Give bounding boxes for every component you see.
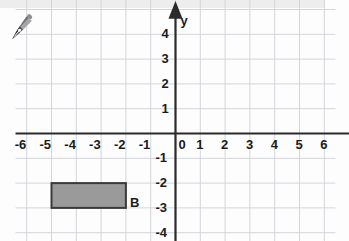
y-tick-neg3: -3	[156, 201, 168, 214]
y-tick-3: 3	[162, 52, 169, 65]
x-tick-2: 2	[221, 138, 228, 151]
x-tick-0: 0	[179, 138, 186, 151]
y-tick-4: 4	[162, 27, 169, 40]
x-tick-neg3: -3	[89, 138, 101, 151]
x-tick-1: 1	[196, 138, 203, 151]
axis-lines	[0, 0, 349, 241]
shape-label-b: B	[130, 196, 139, 209]
y-tick-neg1: -1	[156, 151, 168, 164]
pen-nib-icon	[4, 10, 40, 44]
y-tick-2: 2	[162, 77, 169, 90]
y-tick-neg2: -2	[156, 176, 168, 189]
x-tick-6: 6	[320, 138, 327, 151]
x-tick-3: 3	[246, 138, 253, 151]
x-tick-neg6: -6	[15, 138, 27, 151]
plot-area: -6-5-4-3-2-101234564321-1-2-3-4 x y B	[0, 0, 349, 241]
y-tick-neg4: -4	[156, 226, 168, 239]
x-tick-4: 4	[271, 138, 278, 151]
x-tick-neg1: -1	[139, 138, 151, 151]
y-axis-letter: y	[181, 14, 188, 27]
x-tick-neg5: -5	[40, 138, 52, 151]
x-tick-neg4: -4	[64, 138, 76, 151]
x-tick-5: 5	[296, 138, 303, 151]
y-tick-1: 1	[162, 102, 169, 115]
coordinate-plane-figure: -6-5-4-3-2-101234564321-1-2-3-4 x y B	[0, 0, 349, 241]
x-tick-neg2: -2	[114, 138, 126, 151]
